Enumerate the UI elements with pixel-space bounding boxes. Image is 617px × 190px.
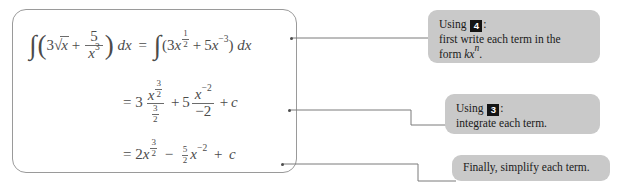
plus-operator-3: + — [168, 94, 182, 110]
coefficient-5b: 5 — [182, 94, 190, 110]
note-1-body-line-1: first write each term in the — [439, 32, 589, 47]
callout-note-2: Using 3: integrate each term. — [445, 94, 600, 134]
note-1-body-line-2: form kxn. — [439, 47, 589, 62]
connector-anchor-dot-2 — [288, 109, 291, 112]
coefficient-3c: 3 — [135, 94, 143, 110]
differential-dx-2: dx — [237, 37, 251, 53]
note-2-prefix: Using — [456, 102, 483, 114]
integral-sign-icon-2: ∫ — [154, 30, 162, 60]
coefficient-3b: 3 — [167, 37, 175, 53]
minus-operator: − — [158, 146, 180, 162]
paren-open: ( — [37, 30, 46, 60]
note-1-colon: : — [483, 18, 486, 30]
note-2-colon: : — [500, 102, 503, 114]
note-1-form-exponent: n — [474, 43, 479, 53]
note-2-heading: Using 3: — [456, 101, 589, 116]
constant-c: c — [231, 94, 238, 110]
exponent-one-half: 12 — [181, 34, 190, 44]
fraction-5-over-x-cubed: 5x3 — [85, 29, 102, 62]
fraction-x-pow-minus2-over-minus2: x−2−2 — [192, 87, 215, 120]
equation-line-1: ∫(3√x+5x3) dx = ∫(3x12+5x−3) dx — [29, 30, 251, 63]
paren-close: ) — [105, 30, 114, 60]
rule-badge-3: 3 — [487, 104, 499, 116]
differential-dx: dx — [117, 37, 131, 53]
radicand-x: x — [60, 36, 69, 53]
connector-line-3 — [283, 164, 456, 181]
exponent-three-halves: 32 — [149, 143, 158, 153]
plus-operator-2: + — [190, 37, 204, 53]
callout-note-1: Using 4: first write each term in the fo… — [428, 10, 600, 63]
note-2-body-line-1: integrate each term. — [456, 116, 589, 131]
note-1-form-math: kx — [464, 48, 474, 60]
note-1-form-suffix: . — [479, 48, 482, 60]
paren-close-2: ) — [228, 37, 233, 53]
equation-line-3: = 2x32 − 52x−2 + c — [123, 140, 236, 166]
exponent-minus-2: −2 — [197, 143, 207, 153]
connector-anchor-dot-3 — [281, 163, 284, 166]
plus-operator: + — [69, 37, 83, 53]
plus-operator-4: + — [217, 94, 231, 110]
constant-c-2: c — [229, 146, 236, 162]
fraction-x-pow-3-2-over-3-2: x3232 — [145, 81, 166, 125]
note-1-form-prefix: form — [439, 48, 464, 60]
note-1-prefix: Using — [439, 18, 466, 30]
equation-line-2: = 3x3232+5x−2−2+c — [123, 82, 238, 126]
equals-sign-2: = — [123, 94, 135, 110]
equals-sign: = — [132, 37, 154, 53]
connector-anchor-dot-1 — [290, 37, 293, 40]
callout-note-3: Finally, simplify each term. — [452, 155, 610, 181]
fraction-five-halves: 52 — [182, 145, 189, 166]
note-1-heading: Using 4: — [439, 17, 589, 32]
note-3-body-line-1: Finally, simplify each term. — [463, 160, 599, 175]
exponent-minus-3: −3 — [218, 34, 228, 44]
coefficient-3: 3 — [46, 37, 54, 53]
coefficient-2: 2 — [135, 146, 143, 162]
worked-example-box: ∫(3√x+5x3) dx = ∫(3x12+5x−3) dx = 3x3232… — [12, 9, 297, 173]
plus-operator-5: + — [207, 146, 229, 162]
connector-line-2 — [290, 110, 449, 125]
worked-example-figure: ∫(3√x+5x3) dx = ∫(3x12+5x−3) dx = 3x3232… — [0, 0, 617, 190]
rule-badge-4: 4 — [470, 20, 482, 32]
equals-sign-3: = — [123, 146, 135, 162]
coefficient-5: 5 — [204, 37, 212, 53]
